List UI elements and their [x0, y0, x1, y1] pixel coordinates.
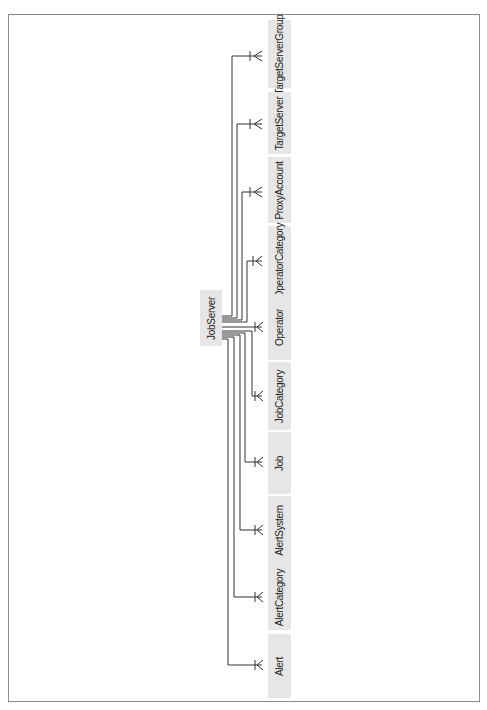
- connector-proxyaccount: [222, 192, 262, 320]
- entity-jobcategory[interactable]: JobCategory: [268, 362, 291, 430]
- entity-label: OperatorCategory: [274, 222, 285, 297]
- entity-operator[interactable]: Operator: [268, 294, 291, 360]
- entity-targetserver[interactable]: TargetServer: [268, 92, 291, 154]
- entity-label: TargetServerGroup: [274, 14, 285, 94]
- entity-label: AlertSystem: [274, 505, 285, 556]
- entity-label: ProxyAccount: [274, 161, 285, 219]
- entity-label: Alert: [274, 656, 285, 675]
- connector-lines: [0, 0, 487, 710]
- entity-alertcategory[interactable]: AlertCategory: [268, 564, 291, 630]
- entity-proxyaccount[interactable]: ProxyAccount: [268, 157, 291, 223]
- entity-job[interactable]: Job: [268, 432, 291, 494]
- entity-label: JobCategory: [274, 369, 285, 422]
- connector-alert: [222, 339, 262, 665]
- entity-label: AlertCategory: [274, 568, 285, 625]
- entity-alert[interactable]: Alert: [268, 634, 291, 698]
- entity-jobserver[interactable]: JobServer: [200, 290, 222, 346]
- entity-label: Operator: [274, 308, 285, 345]
- entity-label: Job: [274, 455, 285, 470]
- entity-targetservergroup[interactable]: TargetServerGroup: [268, 20, 291, 88]
- entity-label: TargetServer: [274, 96, 285, 150]
- entity-operatorcategory[interactable]: OperatorCategory: [268, 226, 291, 294]
- entity-label: JobServer: [206, 297, 217, 340]
- entity-alertsystem[interactable]: AlertSystem: [268, 496, 291, 564]
